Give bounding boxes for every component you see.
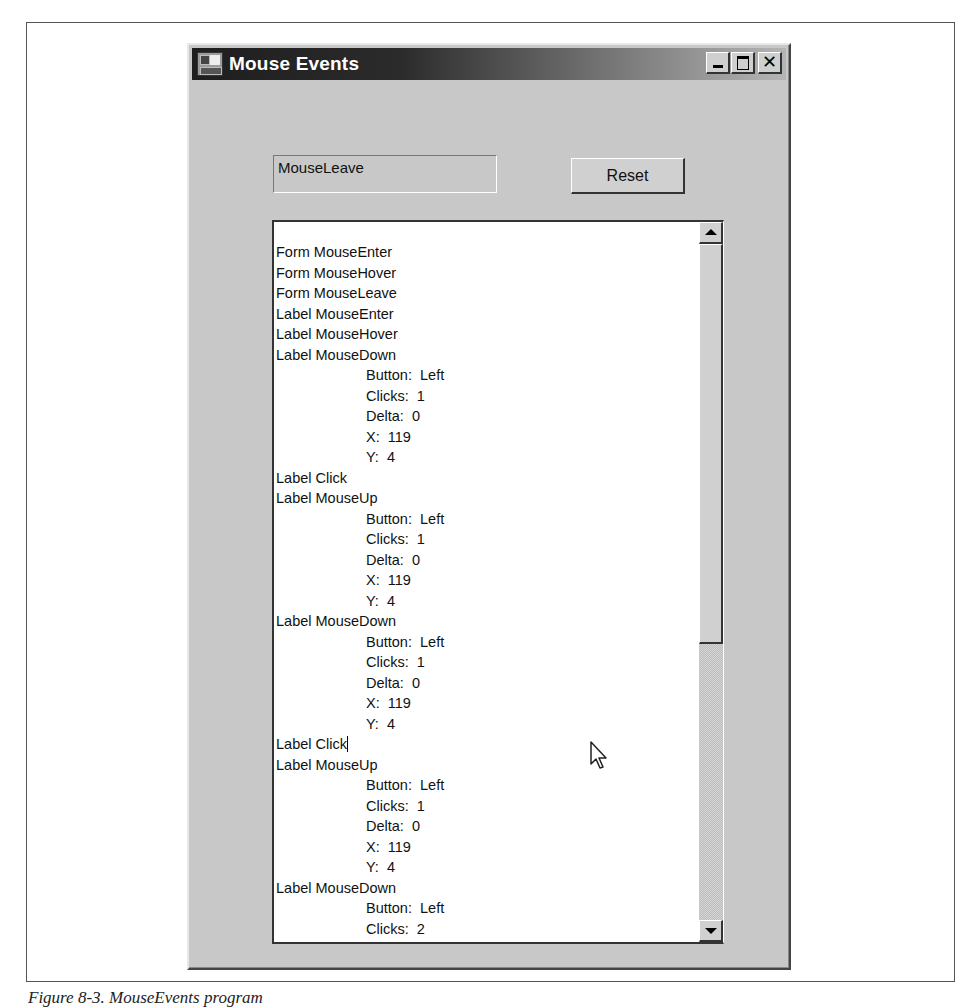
status-label: MouseLeave — [273, 155, 497, 193]
maximize-icon — [737, 56, 749, 70]
minimize-icon — [713, 65, 723, 68]
window-title: Mouse Events — [229, 53, 359, 75]
scroll-down-arrow-icon — [705, 928, 717, 934]
log-line-text: Clicks: 1 — [366, 388, 425, 404]
log-line: Delta: 0 — [276, 406, 696, 427]
reset-button[interactable]: Reset — [571, 158, 685, 194]
log-line: Form MouseHover — [276, 263, 696, 284]
log-line: Label Click — [276, 468, 696, 489]
log-line: Button: Left — [276, 632, 696, 653]
title-bar[interactable]: Mouse Events ✕ — [192, 48, 786, 80]
text-caret — [347, 736, 348, 752]
title-buttons: ✕ — [705, 52, 782, 74]
log-line-text: Y: 4 — [366, 593, 395, 609]
log-line-text: X: 119 — [366, 839, 411, 855]
log-line-text: Button: Left — [366, 900, 444, 916]
event-log-lines: Form MouseEnterForm MouseHoverForm Mouse… — [276, 242, 696, 944]
form-window-icon[interactable] — [197, 52, 223, 76]
log-line: Label MouseDown — [276, 345, 696, 366]
log-line-text: Clicks: 2 — [366, 921, 425, 937]
mouse-events-window: Mouse Events ✕ MouseLeave Reset Form Mou… — [187, 43, 791, 970]
mouse-pointer-icon — [589, 740, 611, 772]
log-line: Delta: 0 — [276, 939, 696, 944]
log-line-text: Button: Left — [366, 634, 444, 650]
log-line-text: Label MouseUp — [276, 757, 378, 773]
log-line: X: 119 — [276, 837, 696, 858]
log-line: Clicks: 1 — [276, 796, 696, 817]
log-line: Y: 4 — [276, 857, 696, 878]
log-line-text: Label Click — [276, 736, 347, 752]
log-line-text: X: 119 — [366, 695, 411, 711]
log-line-text: Clicks: 1 — [366, 654, 425, 670]
log-line-text: Button: Left — [366, 777, 444, 793]
close-button[interactable]: ✕ — [758, 52, 782, 74]
log-line: Button: Left — [276, 775, 696, 796]
scroll-up-button[interactable] — [699, 222, 723, 244]
log-line-text: Y: 4 — [366, 449, 395, 465]
log-line: Button: Left — [276, 898, 696, 919]
log-line: Y: 4 — [276, 714, 696, 735]
vertical-scrollbar[interactable] — [699, 222, 723, 942]
log-line: Label MouseDown — [276, 611, 696, 632]
log-line-text: Delta: 0 — [366, 941, 420, 944]
event-log-textbox[interactable]: Form MouseEnterForm MouseHoverForm Mouse… — [272, 220, 724, 944]
log-line: Label MouseEnter — [276, 304, 696, 325]
log-line: X: 119 — [276, 693, 696, 714]
log-line: Clicks: 1 — [276, 529, 696, 550]
log-line: Label MouseDown — [276, 878, 696, 899]
figure-caption: Figure 8-3. MouseEvents program — [28, 988, 263, 1008]
scrollbar-thumb[interactable] — [699, 244, 723, 644]
log-line-text: X: 119 — [366, 572, 411, 588]
log-line-text: Form MouseLeave — [276, 285, 397, 301]
log-line-text: Y: 4 — [366, 859, 395, 875]
log-line-text: Form MouseEnter — [276, 244, 392, 260]
log-line: Label MouseHover — [276, 324, 696, 345]
log-line-text: Clicks: 1 — [366, 798, 425, 814]
close-icon: ✕ — [759, 51, 780, 72]
minimize-button[interactable] — [706, 52, 730, 74]
log-line: Clicks: 1 — [276, 652, 696, 673]
log-line: X: 119 — [276, 427, 696, 448]
scroll-up-arrow-icon — [705, 229, 717, 235]
log-line: Delta: 0 — [276, 550, 696, 571]
log-line-text: Delta: 0 — [366, 408, 420, 424]
log-line: Button: Left — [276, 365, 696, 386]
maximize-button[interactable] — [731, 52, 755, 74]
log-line: Label MouseUp — [276, 488, 696, 509]
log-line-text: Button: Left — [366, 511, 444, 527]
log-line: Label Click — [276, 734, 696, 755]
log-line-text: Delta: 0 — [366, 552, 420, 568]
log-line-text: Label MouseDown — [276, 613, 396, 629]
log-line: Clicks: 2 — [276, 919, 696, 940]
log-line: Delta: 0 — [276, 673, 696, 694]
log-line-text: Label Click — [276, 470, 347, 486]
log-line: Button: Left — [276, 509, 696, 530]
log-line-text: Label MouseEnter — [276, 306, 394, 322]
log-line: Y: 4 — [276, 447, 696, 468]
log-line-text: Form MouseHover — [276, 265, 396, 281]
log-line-text: Y: 4 — [366, 716, 395, 732]
log-line-text: X: 119 — [366, 429, 411, 445]
log-line: X: 119 — [276, 570, 696, 591]
log-line-text: Label MouseDown — [276, 880, 396, 896]
log-line: Form MouseEnter — [276, 242, 696, 263]
log-line-text: Clicks: 1 — [366, 531, 425, 547]
log-line-text: Label MouseHover — [276, 326, 398, 342]
scroll-down-button[interactable] — [699, 920, 723, 942]
log-line-text: Label MouseUp — [276, 490, 378, 506]
log-line: Delta: 0 — [276, 816, 696, 837]
log-line-text: Button: Left — [366, 367, 444, 383]
log-line: Y: 4 — [276, 591, 696, 612]
log-line-text: Label MouseDown — [276, 347, 396, 363]
log-line: Clicks: 1 — [276, 386, 696, 407]
log-line: Label MouseUp — [276, 755, 696, 776]
log-line-text: Delta: 0 — [366, 675, 420, 691]
log-line-text: Delta: 0 — [366, 818, 420, 834]
log-line: Form MouseLeave — [276, 283, 696, 304]
